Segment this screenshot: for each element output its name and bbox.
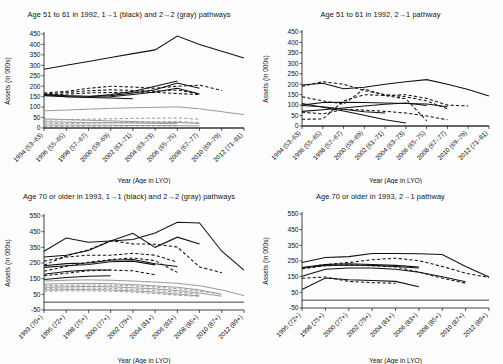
panel-bottom-left: Age 70 or older in 1993, 1→1 (black) and…: [0, 184, 258, 364]
series-line-black-solid-5: [302, 106, 385, 114]
y-tick-label: -50: [289, 304, 299, 311]
x-axis-title: Year (Age in LYO): [118, 357, 171, 364]
series-line-black-solid-4: [302, 268, 466, 282]
panel-bottom-right: Age 70 or older in 1993, 2→1 pathway -50…: [258, 184, 503, 364]
chart-svg-bottom-left: -50501502503504505501993 (70+)1995 (72+)…: [0, 212, 258, 364]
y-tick-label: 0: [37, 124, 41, 131]
y-tick-label: 450: [287, 28, 298, 35]
y-tick-label: 250: [29, 72, 40, 79]
y-tick-label: 350: [287, 49, 298, 56]
y-tick-label: 400: [287, 39, 298, 46]
series-line-black-dash-2: [44, 253, 177, 262]
y-tick-label: 0: [295, 122, 299, 129]
y-tick-label: 250: [287, 257, 298, 264]
y-tick-label: 300: [287, 60, 298, 67]
chart-svg-top-left: 0501001502002503003504004501994 (53–63)1…: [0, 30, 258, 184]
y-tick-label: 50: [33, 291, 41, 298]
series-line-black-solid-5: [302, 278, 419, 290]
series-line-black-solid-2: [44, 233, 200, 257]
y-tick-label: 50: [291, 289, 299, 296]
y-axis-title: Assets (in 000s): [4, 57, 12, 104]
panel-top-left-plot: 0501001502002503003504004501994 (53–63)1…: [0, 30, 258, 184]
y-tick-label: 150: [287, 91, 298, 98]
y-tick-label: 300: [29, 62, 40, 69]
y-tick-label: 50: [33, 114, 41, 121]
panel-top-right: Age 51 to 61 in 1992, 2→1 pathway 050100…: [258, 0, 503, 184]
x-tick-label: 2012 (89+): [462, 311, 490, 339]
y-axis-title: Assets (in 000s): [262, 237, 270, 284]
y-tick-label: 450: [287, 226, 298, 233]
y-tick-label: 400: [29, 41, 40, 48]
series-line-black-dash-4: [302, 95, 427, 121]
panel-bottom-left-plot: -50501502503504505501993 (70+)1995 (72+)…: [0, 212, 258, 364]
x-axis-title: Year (Age in LYO): [118, 177, 171, 185]
y-tick-label: 550: [29, 212, 40, 219]
y-tick-label: -50: [31, 306, 41, 313]
x-axis-title: Year (Age in LYO): [369, 357, 422, 364]
y-tick-label: 200: [287, 81, 298, 88]
y-tick-label: 100: [29, 103, 40, 110]
y-tick-label: 150: [29, 275, 40, 282]
panel-top-right-title: Age 51 to 61 in 1992, 2→1 pathway: [258, 10, 503, 19]
series-line-black-solid-6: [44, 276, 111, 280]
series-line-gray-solid-1: [44, 107, 244, 115]
y-tick-label: 250: [287, 70, 298, 77]
x-tick-label: 2012 (89+): [217, 313, 245, 341]
y-tick-label: 100: [287, 101, 298, 108]
series-line-black-solid-1: [44, 36, 244, 69]
x-axis-title: Year (Age in LYO): [369, 177, 422, 185]
series-line-black-solid-2: [302, 102, 447, 107]
chart-svg-bottom-right: -50501502503504505501995 (72+)1998 (75+)…: [258, 208, 503, 364]
series-line-black-dash-1: [302, 258, 489, 277]
y-tick-label: 150: [29, 93, 40, 100]
series-line-black-solid-3: [44, 260, 177, 267]
y-tick-label: 250: [29, 259, 40, 266]
y-tick-label: 450: [29, 30, 40, 37]
y-tick-label: 50: [291, 112, 299, 119]
panel-top-left: Age 51 to 61 in 1992, 1→1 (black) and 2→…: [0, 0, 258, 184]
chart-svg-top-right: 0501001502002503003504004501994 (53–63)1…: [258, 24, 503, 184]
y-axis-title: Assets (in 000s): [4, 239, 12, 286]
series-line-gray-dash-1: [44, 118, 200, 120]
y-tick-label: 200: [29, 83, 40, 90]
y-tick-label: 350: [29, 51, 40, 58]
y-tick-label: 350: [29, 244, 40, 251]
assets-by-pathway-figure: Age 51 to 61 in 1992, 1→1 (black) and 2→…: [0, 0, 503, 364]
panel-bottom-right-title: Age 70 or older in 1993, 2→1 pathway: [258, 192, 503, 201]
y-tick-label: 150: [287, 273, 298, 280]
y-axis-title: Assets (in 000s): [262, 55, 270, 102]
y-tick-label: 450: [29, 228, 40, 235]
panel-top-left-title: Age 51 to 61 in 1992, 1→1 (black) and 2→…: [0, 10, 258, 19]
panel-bottom-left-title: Age 70 or older in 1993, 1→1 (black) and…: [0, 192, 258, 201]
series-line-black-dash-4: [44, 270, 155, 276]
y-tick-label: 550: [287, 210, 298, 217]
panel-top-right-plot: 0501001502002503003504004501994 (53–63)1…: [258, 24, 503, 184]
panel-bottom-right-plot: -50501502503504505501995 (72+)1998 (75+)…: [258, 208, 503, 364]
y-tick-label: 350: [287, 242, 298, 249]
